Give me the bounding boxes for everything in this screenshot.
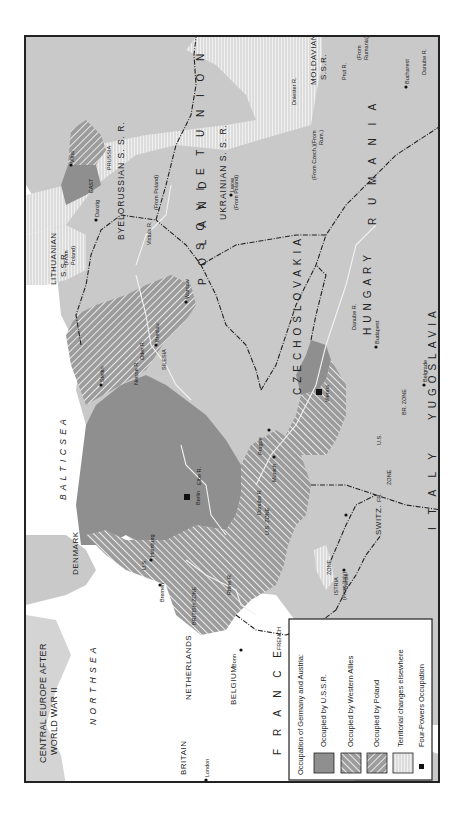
- label-moldavian-ssr: S.S.R.: [319, 54, 328, 80]
- river-danube-1: Danube R.: [256, 488, 262, 515]
- city-stettin: Stettin: [99, 366, 105, 382]
- city-warsaw: Warsaw: [184, 279, 190, 299]
- label-from-rumania-1: (From: [356, 45, 362, 60]
- label-east: EAST: [88, 178, 94, 193]
- legend: Occupation of Germany and Austria: Occup…: [289, 619, 432, 780]
- label-us-enclave: U.S.: [141, 559, 147, 570]
- label-from-rum-2: Rum.): [318, 130, 324, 145]
- four-powers-vienna-icon: [316, 389, 322, 395]
- label-rumania: R U M A N I A: [367, 99, 378, 225]
- legend-label-ussr: Occupied by U.S.S.R.: [319, 674, 328, 747]
- label-switz: SWITZ.: [374, 505, 383, 535]
- river-danube-2: Danube R.: [351, 303, 357, 330]
- city-bucharest: Bucharest: [404, 59, 410, 84]
- label-baltic-sea: B A L T I C S E A: [58, 418, 68, 500]
- river-dniester: Dniester R.: [291, 77, 297, 105]
- legend-swatch-territorial: [393, 753, 413, 773]
- label-istria: ISTRIA: [333, 577, 339, 595]
- label-br-zone: BR. ZONE: [401, 389, 407, 415]
- map-title-line2: WORLD WAR II: [49, 687, 59, 755]
- label-north-sea: N O R T H S E A: [88, 647, 98, 725]
- map-frame: CENTRAL EUROPE AFTER WORLD WAR II N O R …: [24, 35, 440, 783]
- label-fr-austria: FR.: [376, 493, 382, 502]
- map-canvas: CENTRAL EUROPE AFTER WORLD WAR II N O R …: [26, 37, 440, 783]
- city-bremen: Bremen: [159, 583, 165, 602]
- label-from-czech: (From Czech.): [311, 145, 317, 180]
- city-breslau: Breslau: [154, 323, 160, 342]
- four-powers-berlin-icon: [184, 494, 190, 500]
- label-from-poland-vilna-2: Poland): [70, 246, 76, 265]
- label-yugoslavia: YUGOSLAVIA: [427, 306, 438, 420]
- river-prut: Prut R.: [341, 62, 347, 80]
- city-belgrade: Belgrade: [422, 360, 428, 382]
- label-lithuanian: LITHUANIAN: [49, 232, 58, 285]
- river-elbe: Elbe R.: [196, 466, 202, 485]
- legend-swatch-ussr: [314, 753, 334, 773]
- river-neisse: Neisse R.: [133, 361, 139, 385]
- legend-swatch-western: [341, 753, 361, 773]
- label-soviet-union: S O V I E T U N I O N: [195, 49, 206, 250]
- label-moldavian: MOLDAVIAN: [309, 37, 318, 85]
- label-france: F R A N C E: [272, 646, 283, 755]
- label-silesia: SILESIA: [161, 349, 167, 370]
- city-budapest: Budapest: [374, 320, 380, 344]
- city-london: London: [204, 759, 210, 777]
- label-from-rum-1: (From: [311, 130, 317, 145]
- label-from-poland-vilna-1: (From: [63, 250, 69, 265]
- label-britain: BRITAIN: [179, 741, 188, 775]
- label-us-zone: U.S. ZONE: [264, 507, 270, 535]
- label-italy: I T A L Y: [427, 448, 438, 530]
- legend-four-powers-icon: [419, 764, 424, 769]
- label-ukrainian: UKRAINIAN S. S. R.: [218, 124, 228, 220]
- label-from-rumania-2: Rumania): [363, 37, 369, 60]
- river-vistula: Vistula R.: [146, 221, 152, 245]
- city-vienna: Vienna: [324, 384, 330, 402]
- label-hungary: HUNGARY: [362, 250, 373, 335]
- central-europe-map: CENTRAL EUROPE AFTER WORLD WAR II N O R …: [26, 37, 440, 783]
- city-danzig: Danzig: [94, 200, 100, 217]
- map-title-line1: CENTRAL EUROPE AFTER: [38, 643, 48, 763]
- label-denmark: DENMARK: [71, 531, 80, 575]
- city-trieste: Trieste: [343, 573, 349, 590]
- city-berlin: Berlin: [195, 491, 201, 505]
- legend-label-poland: Occupied by Poland: [372, 680, 381, 747]
- legend-heading: Occupation of Germany and Austria:: [296, 654, 305, 775]
- river-danube-3: Danube R.: [421, 48, 427, 75]
- label-fr-austria-zone: ZONE: [386, 469, 392, 485]
- label-from-poland-1: (From Poland): [153, 175, 159, 210]
- label-byelorussian: BYELORUSSIAN S. S. R.: [116, 121, 126, 240]
- label-british-zone: BRITISH ZONE: [191, 586, 197, 625]
- legend-label-western: Occupied by Western Allies: [346, 656, 355, 747]
- city-vilna: Vilna: [69, 150, 75, 163]
- label-french-zone: FRENCH: [276, 627, 282, 650]
- river-rhine: Rhine R.: [226, 573, 232, 595]
- label-prussia: PRUSSIA: [106, 146, 112, 170]
- legend-swatch-poland: [367, 753, 387, 773]
- legend-label-four-powers: Four-Powers Occupation: [417, 664, 426, 747]
- city-prague: Prague: [257, 437, 263, 455]
- label-belgium: BELGIUM: [229, 665, 238, 705]
- city-bonn: Bonn: [231, 654, 237, 667]
- legend-label-territorial: Territorial changes elsewhere: [396, 649, 405, 747]
- label-netherlands: NETHERLANDS: [184, 635, 193, 700]
- city-munich: Munich: [271, 464, 277, 482]
- river-oder: Oder R.: [139, 340, 145, 360]
- label-french-zone-2: ZONE: [326, 559, 332, 575]
- label-czechoslovakia: CZECHOSLOVAKIA: [292, 234, 303, 395]
- label-us-austria: U.S.: [376, 434, 382, 445]
- city-lwow: Lwow: [229, 178, 235, 192]
- city-hamburg: Hamburg: [149, 534, 155, 557]
